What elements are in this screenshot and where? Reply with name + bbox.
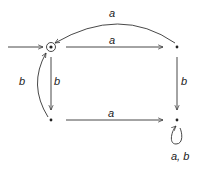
label-right-straight: b: [181, 75, 187, 87]
automaton-diagram: a a b b b a a, b: [0, 0, 203, 175]
state-q2: [50, 119, 53, 122]
edge-q3-loop: [171, 126, 176, 144]
label-top-straight: a: [109, 34, 115, 46]
label-bottom-straight: a: [108, 107, 114, 119]
label-left-straight: b: [54, 75, 60, 87]
edge-q2-q0-b: [37, 53, 48, 117]
label-loop: a, b: [171, 150, 189, 162]
label-left-curve: b: [19, 75, 25, 87]
state-q3: [176, 119, 179, 122]
state-q0: [47, 43, 56, 52]
edge-q3-loop-tail: [176, 128, 182, 144]
state-q1: [176, 46, 179, 49]
label-top-arc: a: [109, 7, 115, 19]
